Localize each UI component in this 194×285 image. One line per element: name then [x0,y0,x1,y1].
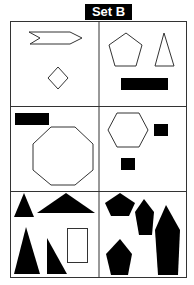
cell-r3c2 [105,193,180,275]
diamond-shape [48,67,68,89]
chevron-arrow-shape [29,32,82,44]
cell-r1c2 [109,33,174,90]
square-filled-shape [154,124,168,136]
square-filled-shape [121,158,135,170]
pentagon-outline-shape [109,33,142,66]
triangle-filled-wide-shape [37,193,95,213]
pentagon-filled-tall-shape [135,199,154,235]
pentagon-filled-shape [105,193,135,216]
hexagon-outline-shape [108,113,148,147]
triangle-filled-tall-shape [14,227,40,274]
shape-grid [0,0,194,285]
rectangle-filled-shape [15,113,49,125]
cell-r2c2 [108,113,168,170]
cell-r3c1 [14,193,95,274]
octagon-outline-shape [33,127,93,185]
rectangle-filled-shape [121,78,168,90]
rectangle-outline-shape [68,229,88,263]
pentagon-filled-shape [106,239,132,275]
hexagon-filled-elongated-shape [155,205,180,275]
triangle-outline-shape [155,33,174,66]
triangle-filled-right-shape [47,238,67,274]
triangle-filled-shape [14,193,34,217]
cell-r2c1 [15,113,93,185]
cell-r1c1 [29,32,82,89]
